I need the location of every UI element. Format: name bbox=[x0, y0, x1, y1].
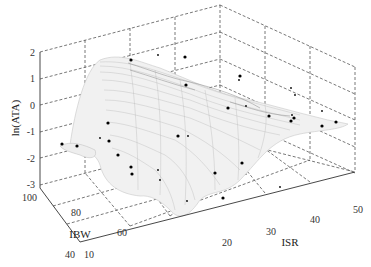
svg-text:60: 60 bbox=[117, 227, 127, 238]
y-axis-ticks: 100 80 60 40 bbox=[22, 192, 127, 260]
plot-canvas: 2 1 0 -1 -2 -3 ln(ATA) 100 80 60 40 IBW … bbox=[0, 0, 371, 267]
svg-text:80: 80 bbox=[71, 207, 81, 218]
surface-plot-3d: 2 1 0 -1 -2 -3 ln(ATA) 100 80 60 40 IBW … bbox=[0, 0, 371, 267]
z-axis-label: ln(ATA) bbox=[9, 99, 22, 136]
z-axis-ticks: 2 1 0 -1 -2 -3 bbox=[27, 47, 35, 190]
svg-text:40: 40 bbox=[65, 249, 75, 260]
svg-text:2: 2 bbox=[30, 47, 35, 58]
svg-text:40: 40 bbox=[310, 214, 320, 225]
y-axis-label: IBW bbox=[69, 228, 91, 240]
svg-text:-2: -2 bbox=[27, 153, 35, 164]
svg-text:30: 30 bbox=[266, 226, 276, 237]
svg-text:50: 50 bbox=[353, 204, 363, 215]
svg-text:10: 10 bbox=[84, 249, 94, 260]
svg-text:20: 20 bbox=[222, 237, 232, 248]
svg-text:-1: -1 bbox=[27, 126, 35, 137]
x-axis-label: ISR bbox=[281, 236, 299, 248]
svg-text:0: 0 bbox=[30, 100, 35, 111]
svg-text:1: 1 bbox=[30, 73, 35, 84]
svg-text:-3: -3 bbox=[27, 179, 35, 190]
svg-text:100: 100 bbox=[22, 192, 37, 203]
